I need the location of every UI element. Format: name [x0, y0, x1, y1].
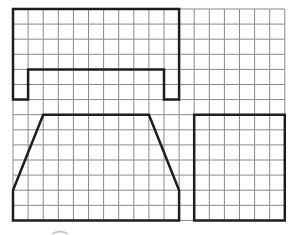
scan-artifact-mark — [52, 232, 68, 235]
grid-diagram — [0, 0, 296, 234]
trapezoid-shape — [13, 115, 179, 221]
